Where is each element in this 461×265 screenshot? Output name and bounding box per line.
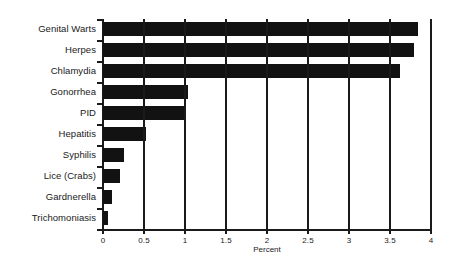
x-tick-mark: [389, 229, 391, 234]
x-tick-label: 0.5: [138, 236, 149, 245]
gridline: [389, 19, 391, 229]
x-tick-label: 0: [101, 236, 106, 245]
y-tick-mark: [97, 82, 103, 84]
y-category-label: Trichomoniasis: [32, 212, 96, 223]
gridline: [266, 19, 268, 229]
x-tick-label: 2.5: [302, 236, 313, 245]
x-tick-label: 3.5: [384, 236, 395, 245]
y-category-label: Hepatitis: [59, 128, 96, 139]
x-tick-label: 3: [347, 236, 352, 245]
x-tick-mark: [143, 229, 145, 234]
gridline: [348, 19, 350, 229]
y-tick-mark: [97, 229, 103, 231]
bar: [103, 64, 400, 78]
y-category-label: PID: [80, 107, 96, 118]
x-tick-label: 1: [183, 236, 188, 245]
bar: [103, 211, 108, 225]
x-tick-mark: [348, 229, 350, 234]
bar: [103, 85, 188, 99]
y-tick-mark: [97, 208, 103, 210]
x-tick-label: 1.5: [220, 236, 231, 245]
gridline: [184, 19, 186, 229]
bar: [103, 127, 146, 141]
y-category-label: Syphilis: [63, 149, 96, 160]
bar: [103, 148, 124, 162]
x-axis-title: Percent: [253, 245, 281, 254]
y-tick-mark: [97, 124, 103, 126]
y-category-label: Chlamydia: [51, 65, 96, 76]
bar: [103, 190, 112, 204]
gridline: [143, 19, 145, 229]
y-tick-mark: [97, 61, 103, 63]
y-tick-mark: [97, 166, 103, 168]
y-category-label: Herpes: [65, 44, 96, 55]
x-tick-mark: [266, 229, 268, 234]
bar-chart: 00.511.522.533.54 Genital WartsHerpesChl…: [0, 0, 461, 265]
y-tick-mark: [97, 187, 103, 189]
x-tick-mark: [184, 229, 186, 234]
x-tick-label: 2: [265, 236, 270, 245]
y-tick-mark: [97, 19, 103, 21]
bar: [103, 22, 418, 36]
y-category-label: Gardnerella: [46, 191, 96, 202]
x-tick-mark: [430, 229, 432, 234]
x-tick-mark: [307, 229, 309, 234]
gridline: [225, 19, 227, 229]
bar: [103, 43, 414, 57]
y-tick-mark: [97, 145, 103, 147]
y-category-label: Genital Warts: [38, 23, 96, 34]
y-tick-mark: [97, 40, 103, 42]
x-tick-label: 4: [429, 236, 434, 245]
y-category-label: Gonorrhea: [50, 86, 96, 97]
bar: [103, 169, 120, 183]
y-category-label: Lice (Crabs): [44, 170, 96, 181]
x-tick-mark: [225, 229, 227, 234]
y-tick-mark: [97, 103, 103, 105]
gridline: [307, 19, 309, 229]
